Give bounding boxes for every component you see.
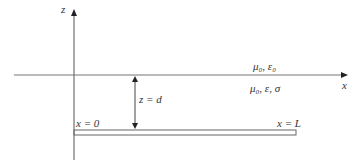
depth-label: z = d	[139, 94, 162, 105]
x-axis-arrowhead-icon	[341, 72, 348, 78]
strip-start-label: x = 0	[76, 118, 99, 129]
lower-region-params: μ₀, ε, σ	[250, 83, 280, 94]
z-axis-arrowhead-icon	[71, 9, 77, 16]
depth-dimension-arrow	[132, 76, 138, 129]
z-axis-label: z	[61, 4, 65, 15]
z-axis	[71, 9, 77, 160]
strip-end-label: x = L	[277, 118, 301, 129]
arrow-down-icon	[132, 123, 138, 129]
diagram-canvas	[0, 0, 361, 162]
x-axis-label: x	[342, 80, 347, 91]
upper-region-params: μ₀, ε₀	[253, 61, 276, 72]
arrow-up-icon	[132, 76, 138, 82]
x-axis	[14, 72, 348, 78]
buried-strip	[74, 130, 296, 135]
